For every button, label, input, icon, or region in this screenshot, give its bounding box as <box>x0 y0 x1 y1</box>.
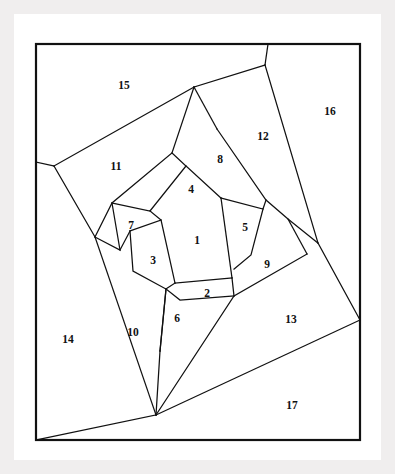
region-label-16: 16 <box>324 105 336 117</box>
region-label-3: 3 <box>150 254 156 266</box>
region-label-14: 14 <box>62 333 74 345</box>
region-label-4: 4 <box>188 183 194 195</box>
region-label-8: 8 <box>217 153 223 165</box>
region-label-7: 7 <box>128 219 134 231</box>
region-label-12: 12 <box>257 130 269 142</box>
region-label-11: 11 <box>111 160 122 172</box>
region-label-17: 17 <box>286 399 298 411</box>
figure-root: 1234567891011121314151617 <box>0 0 395 474</box>
region-label-2: 2 <box>204 287 210 299</box>
region-label-10: 10 <box>127 326 139 338</box>
region-label-5: 5 <box>242 221 248 233</box>
region-label-9: 9 <box>264 258 270 270</box>
region-label-13: 13 <box>285 313 297 325</box>
dissection-diagram: 1234567891011121314151617 <box>0 0 395 474</box>
region-label-1: 1 <box>194 234 200 246</box>
region-label-15: 15 <box>118 79 130 91</box>
region-label-6: 6 <box>174 312 180 324</box>
